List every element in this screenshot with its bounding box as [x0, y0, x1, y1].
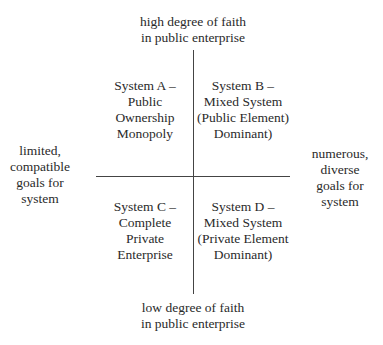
- quadrant-c-label: System C – Complete Private Enterprise: [100, 199, 190, 263]
- right-axis-label: numerous, diverse goals for system: [300, 146, 380, 210]
- left-axis-label: limited, compatible goals for system: [0, 143, 80, 207]
- quadrant-b-label: System B – Mixed System (Public Element)…: [195, 78, 291, 142]
- vertical-axis: [193, 50, 194, 294]
- quadrant-a-label: System A – Public Ownership Monopoly: [100, 78, 190, 142]
- bottom-axis-label: low degree of faith in public enterprise: [130, 300, 256, 332]
- quadrant-d-label: System D – Mixed System (Private Element…: [195, 199, 291, 263]
- horizontal-axis: [96, 176, 290, 177]
- top-axis-label: high degree of faith in public enterpris…: [130, 14, 256, 46]
